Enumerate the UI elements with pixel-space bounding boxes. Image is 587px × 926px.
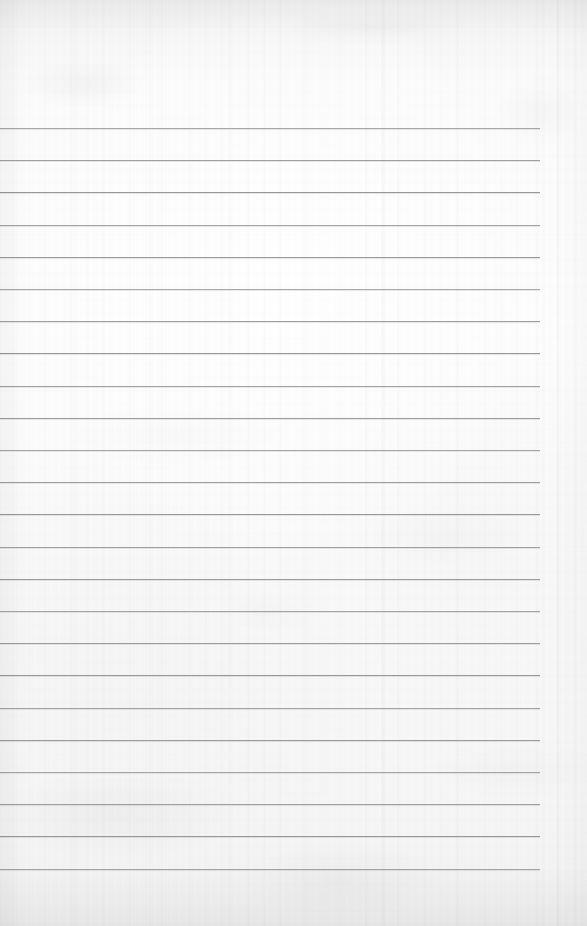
writing-area[interactable] (0, 128, 540, 873)
notebook-page (0, 0, 587, 926)
